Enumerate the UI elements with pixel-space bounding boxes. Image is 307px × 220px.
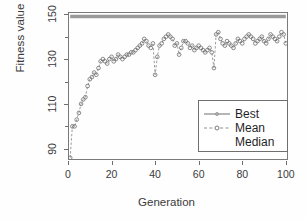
x-tick-label: 0 <box>53 168 83 180</box>
y-tick-label: 90 <box>46 137 58 161</box>
x-tick-label: 80 <box>227 168 257 180</box>
y-axis-title: Fitness value <box>14 0 30 98</box>
legend-key-mean <box>199 121 235 135</box>
legend-item-best: Best <box>199 107 289 121</box>
x-tick-mark <box>242 161 243 165</box>
x-tick-label: 60 <box>184 168 214 180</box>
legend-label: Best <box>235 107 259 121</box>
legend-item-mean: Mean <box>199 121 289 135</box>
legend-item-median: Median <box>199 135 289 149</box>
y-tick-label: 130 <box>46 47 58 71</box>
legend-symbol-solid-line <box>199 107 235 121</box>
x-tick-label: 100 <box>271 168 301 180</box>
x-axis-title: Generation <box>0 196 307 208</box>
y-tick-label: 110 <box>46 92 58 116</box>
x-tick-mark <box>199 161 200 165</box>
legend-key-median <box>199 135 235 149</box>
legend-symbol-dashed-line <box>199 121 235 135</box>
x-tick-label: 20 <box>97 168 127 180</box>
figure-canvas: Fitness value Generation 90110130150 020… <box>0 0 307 220</box>
legend-label: Median <box>235 135 274 149</box>
x-tick-label: 40 <box>140 168 170 180</box>
legend-box: BestMeanMedian <box>198 100 288 152</box>
x-tick-mark <box>155 161 156 165</box>
x-tick-mark <box>286 161 287 165</box>
legend-label: Mean <box>235 121 265 135</box>
y-tick-label: 150 <box>46 2 58 26</box>
x-tick-mark <box>68 161 69 165</box>
x-tick-mark <box>112 161 113 165</box>
legend-key-best <box>199 107 235 121</box>
